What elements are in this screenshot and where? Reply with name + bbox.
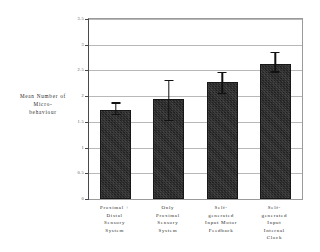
- x-axis-category-line: Self-: [244, 204, 304, 212]
- y-axis-label-line-2: Micro-: [8, 100, 78, 108]
- y-axis-tick-label: 0: [82, 197, 85, 201]
- x-axis-category-label-3: Self-generatedInputInternalClock: [244, 204, 304, 242]
- error-bar-cap-upper: [218, 72, 227, 73]
- y-axis-tick-label: 1.5: [78, 120, 84, 124]
- y-axis-tick-label: 2: [82, 94, 85, 98]
- bar: [207, 82, 238, 199]
- error-bar-cap-upper: [271, 52, 280, 53]
- x-axis-category-line: Sensory: [85, 219, 145, 227]
- x-axis-category-line: System: [138, 227, 198, 235]
- bar: [100, 110, 131, 199]
- error-bar-cap-upper: [111, 102, 120, 103]
- y-axis-tick-label: 3.5: [78, 17, 84, 21]
- x-axis-category-line: Feedback: [191, 227, 251, 235]
- x-axis-category-line: generated: [244, 212, 304, 220]
- x-axis-category-line: Sensory: [138, 219, 198, 227]
- error-bar-cap-upper: [164, 80, 173, 81]
- y-axis-tick-label: 0.5: [78, 171, 84, 175]
- y-axis-tick-mark: [85, 199, 89, 200]
- bar-group: [249, 19, 302, 199]
- error-bar: [115, 102, 116, 113]
- error-bar-cap-lower: [271, 71, 280, 72]
- bar-group: [89, 19, 142, 199]
- y-axis-tick-label: 1: [82, 145, 85, 149]
- x-axis-category-label-2: Self-generatedInput MotorFeedback: [191, 204, 251, 234]
- x-axis-category-label-0: Proximal +DistalSensorySystem: [85, 204, 145, 234]
- error-bar-cap-lower: [218, 93, 227, 94]
- x-axis-category-label-1: OnlyProximalSensorySystem: [138, 204, 198, 234]
- bar-group: [142, 19, 195, 199]
- error-bar-cap-lower: [164, 120, 173, 121]
- y-axis-label: Mean Number of Micro- behaviour: [8, 92, 78, 116]
- x-axis-category-line: Input Motor: [191, 219, 251, 227]
- x-axis-category-line: Input: [244, 219, 304, 227]
- bar: [260, 64, 291, 199]
- x-axis-category-line: Internal: [244, 227, 304, 235]
- x-axis-category-line: generated: [191, 212, 251, 220]
- x-axis-category-line: Proximal +: [85, 204, 145, 212]
- error-bar: [168, 80, 169, 120]
- y-axis-tick-label: 3: [82, 43, 85, 47]
- x-axis-category-line: Distal: [85, 212, 145, 220]
- x-axis-category-line: Proximal: [138, 212, 198, 220]
- error-bar-cap-lower: [111, 114, 120, 115]
- x-axis-category-line: System: [85, 227, 145, 235]
- plot-area: 00.511.522.533.5: [88, 18, 303, 200]
- error-bar: [275, 52, 276, 72]
- y-axis-tick-label: 2.5: [78, 68, 84, 72]
- y-axis-label-line-1: Mean Number of: [8, 92, 78, 100]
- x-axis-category-line: Clock: [244, 234, 304, 242]
- error-bar: [221, 72, 222, 93]
- bar-group: [196, 19, 249, 199]
- x-axis-category-line: Only: [138, 204, 198, 212]
- x-axis-category-line: Self-: [191, 204, 251, 212]
- chart-figure: Mean Number of Micro- behaviour 00.511.5…: [0, 0, 320, 252]
- y-axis-label-line-3: behaviour: [8, 108, 78, 116]
